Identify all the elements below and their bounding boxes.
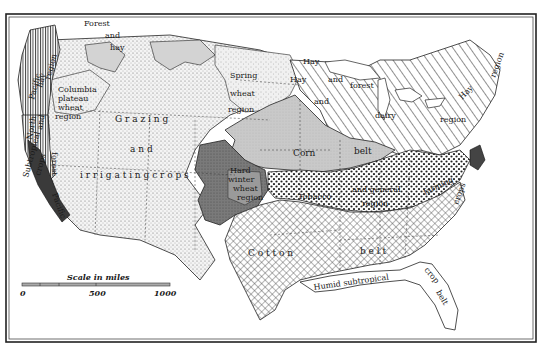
label-corn: Corn [293, 148, 316, 158]
label-irrigating: i r r i g a t i n g c r o p s [80, 170, 189, 180]
label-columbia-wheat: wheat [58, 103, 84, 112]
label-forest-nw-hay: hay [110, 43, 125, 52]
label-hard-region: region [237, 193, 263, 202]
label-grazing: G r a z i n g [115, 114, 168, 124]
label-spring-wheat: wheat [230, 89, 256, 98]
label-forest-nw-and: and [105, 31, 120, 40]
scale-bar: Scale in miles 0 500 1000 [20, 272, 177, 298]
label-general-region: region [362, 199, 388, 208]
scale-tick-1000: 1000 [154, 288, 177, 298]
label-tobacco: Tobacco [298, 192, 331, 201]
label-and-general: and general [352, 185, 401, 194]
label-hay-lake-and: and [328, 75, 343, 84]
label-hard-winter: winter [228, 175, 255, 184]
label-hay-dairy-and: and [314, 97, 329, 106]
label-cotton-belt: b e l t [360, 246, 387, 256]
label-hay-lake: Hay [303, 57, 320, 66]
region-truck-crops [470, 145, 485, 170]
label-forest-v: forest [50, 152, 59, 176]
label-columbia-region: region [55, 112, 81, 121]
agricultural-regions-map: Forest and hay Columbia plateau wheat re… [0, 0, 543, 346]
label-dairy: dairy [375, 111, 396, 120]
label-hard: Hard [230, 166, 251, 175]
label-columbia: Columbia [58, 85, 97, 94]
label-grazing-and: a n d [130, 144, 153, 154]
label-spring: Spring [230, 71, 257, 80]
label-hay-lake-forest: forest [350, 81, 374, 90]
label-plateau: plateau [58, 94, 88, 103]
label-forest-nw: Forest [84, 19, 111, 28]
scale-title: Scale in miles [67, 272, 130, 282]
label-cotton: C o t t o n [248, 248, 293, 258]
label-spring-region: region [228, 105, 254, 114]
label-dairy-region: region [440, 115, 466, 124]
scale-tick-0: 0 [20, 288, 26, 298]
label-corn-belt: belt [354, 146, 372, 156]
label-hay-dairy: Hay [290, 75, 307, 84]
label-hard-wheat: wheat [233, 184, 259, 193]
scale-tick-500: 500 [89, 288, 106, 298]
label-crops-east: crops [451, 182, 467, 206]
